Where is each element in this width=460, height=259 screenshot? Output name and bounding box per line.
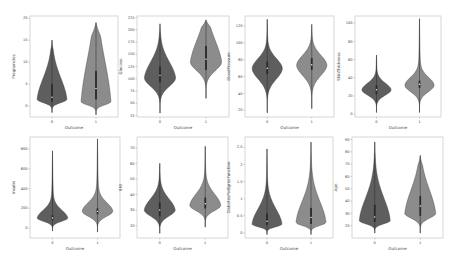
y-tick-label: 20 bbox=[130, 224, 135, 228]
y-tick-label: 175 bbox=[128, 40, 135, 44]
y-tick-label: 1 bbox=[240, 197, 242, 201]
median-marker bbox=[310, 217, 311, 218]
median-marker bbox=[419, 84, 420, 85]
x-axis-label: Outcome bbox=[66, 246, 85, 251]
y-tick-label: 80 bbox=[348, 40, 353, 44]
iqr-box bbox=[159, 67, 161, 83]
y-axis-label: Age bbox=[333, 183, 338, 191]
y-tick-label: 0 bbox=[25, 226, 28, 230]
y-tick-label: 0 bbox=[25, 104, 28, 108]
y-tick-label: 60 bbox=[130, 162, 135, 166]
subplot-diabetespedigreefunction: 00.511.522.501OutcomeDiabetesPedigreeFun… bbox=[226, 137, 333, 251]
x-tick-label: 1 bbox=[96, 241, 98, 245]
y-axis-label: SkinThickness bbox=[336, 52, 341, 80]
y-tick-label: 20 bbox=[23, 16, 28, 20]
y-tick-label: 60 bbox=[238, 75, 243, 79]
x-tick-label: 0 bbox=[159, 120, 162, 124]
median-marker bbox=[159, 209, 160, 210]
median-marker bbox=[52, 217, 53, 218]
x-tick-label: 1 bbox=[419, 241, 421, 245]
x-tick-label: 0 bbox=[51, 241, 54, 245]
y-tick-label: 90 bbox=[345, 138, 350, 142]
x-axis-label: Outcome bbox=[280, 246, 299, 251]
iqr-box bbox=[311, 58, 313, 70]
y-tick-label: 5 bbox=[25, 82, 27, 86]
y-axis-label: Insulin bbox=[11, 180, 16, 194]
median-marker bbox=[266, 221, 267, 222]
y-tick-label: 400 bbox=[21, 187, 29, 191]
median-marker bbox=[205, 203, 206, 204]
iqr-box bbox=[374, 205, 376, 222]
median-marker bbox=[205, 58, 206, 59]
iqr-box bbox=[310, 208, 312, 224]
median-marker bbox=[376, 89, 377, 90]
subplot-glucose: 25507510012515017520022501OutcomeGlucose bbox=[118, 16, 229, 130]
y-tick-label: 200 bbox=[21, 206, 29, 210]
median-marker bbox=[420, 205, 421, 206]
y-tick-label: 50 bbox=[345, 187, 350, 191]
y-tick-label: 25 bbox=[130, 114, 135, 118]
y-tick-label: 225 bbox=[128, 16, 135, 20]
y-tick-label: 100 bbox=[128, 77, 136, 81]
axes-frame bbox=[355, 16, 441, 117]
x-tick-label: 1 bbox=[418, 120, 420, 124]
y-tick-label: 2.5 bbox=[237, 145, 243, 149]
x-axis-label: Outcome bbox=[174, 125, 193, 130]
median-marker bbox=[51, 97, 52, 98]
y-tick-label: 15 bbox=[23, 38, 28, 42]
y-tick-label: 200 bbox=[128, 28, 136, 32]
x-tick-label: 0 bbox=[266, 241, 269, 245]
y-tick-label: 70 bbox=[130, 146, 135, 150]
axes-frame bbox=[137, 137, 228, 238]
x-axis-label: Outcome bbox=[280, 125, 299, 130]
x-tick-label: 1 bbox=[204, 241, 206, 245]
y-tick-label: 40 bbox=[130, 193, 135, 197]
median-marker bbox=[374, 216, 375, 217]
iqr-box bbox=[205, 46, 207, 70]
y-tick-label: 1.5 bbox=[237, 180, 243, 184]
y-tick-label: 60 bbox=[345, 175, 350, 179]
y-tick-label: 80 bbox=[238, 58, 243, 62]
x-tick-label: 0 bbox=[374, 241, 377, 245]
y-tick-label: 75 bbox=[130, 89, 135, 93]
y-tick-label: 600 bbox=[21, 167, 29, 171]
y-tick-label: 120 bbox=[236, 24, 244, 28]
y-tick-label: 20 bbox=[348, 94, 353, 98]
x-tick-label: 0 bbox=[51, 120, 54, 124]
y-tick-label: 50 bbox=[130, 101, 135, 105]
median-marker bbox=[159, 75, 160, 76]
x-axis-label: Outcome bbox=[173, 246, 192, 251]
y-tick-label: 10 bbox=[23, 60, 28, 64]
violin-plot-grid: 0510152001OutcomePregnancies255075100125… bbox=[0, 0, 460, 259]
median-marker bbox=[97, 211, 98, 212]
subplot-insulin: 020040060080001OutcomeInsulin bbox=[11, 137, 120, 251]
x-tick-label: 0 bbox=[375, 120, 378, 124]
iqr-box bbox=[95, 71, 97, 100]
median-marker bbox=[95, 88, 96, 89]
y-tick-label: 0.5 bbox=[237, 214, 243, 218]
axes-frame bbox=[30, 137, 120, 238]
x-tick-label: 1 bbox=[310, 241, 312, 245]
iqr-box bbox=[204, 198, 206, 209]
y-tick-label: 30 bbox=[130, 208, 135, 212]
y-tick-label: 125 bbox=[128, 65, 135, 69]
y-tick-label: 80 bbox=[345, 150, 350, 154]
y-axis-label: BMI bbox=[118, 184, 123, 191]
median-marker bbox=[267, 67, 268, 68]
subplot-age: 203040506070809001OutcomeAge bbox=[333, 137, 443, 251]
y-tick-label: 100 bbox=[236, 41, 244, 45]
subplot-skinthickness: 02040608010001OutcomeSkinThickness bbox=[336, 16, 441, 130]
x-tick-label: 1 bbox=[95, 120, 97, 124]
y-tick-label: 150 bbox=[128, 52, 136, 56]
y-tick-label: 40 bbox=[345, 199, 350, 203]
iqr-box bbox=[159, 202, 161, 216]
subplot-pregnancies: 0510152001OutcomePregnancies bbox=[11, 16, 118, 130]
x-tick-label: 1 bbox=[205, 120, 207, 124]
y-tick-label: 0 bbox=[240, 231, 243, 235]
x-axis-label: Outcome bbox=[388, 246, 407, 251]
y-tick-label: 70 bbox=[345, 162, 350, 166]
iqr-box bbox=[266, 214, 268, 225]
y-tick-label: 40 bbox=[238, 92, 243, 96]
y-axis-label: Pregnancies bbox=[11, 54, 16, 78]
y-tick-label: 0 bbox=[350, 112, 353, 116]
